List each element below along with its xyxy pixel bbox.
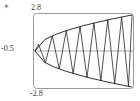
axis-tick-label-top: 2.8 [31,3,41,12]
figure-root: ✦ 2.8 -2.8 -0.5 [0,0,140,101]
sparkle-icon: ✦ [2,2,11,11]
plot-area [33,13,134,89]
axis-tick-label-bottom: -2.8 [30,89,43,98]
axis-tick-label-left: -0.5 [1,44,14,53]
plot-svg [33,13,134,89]
